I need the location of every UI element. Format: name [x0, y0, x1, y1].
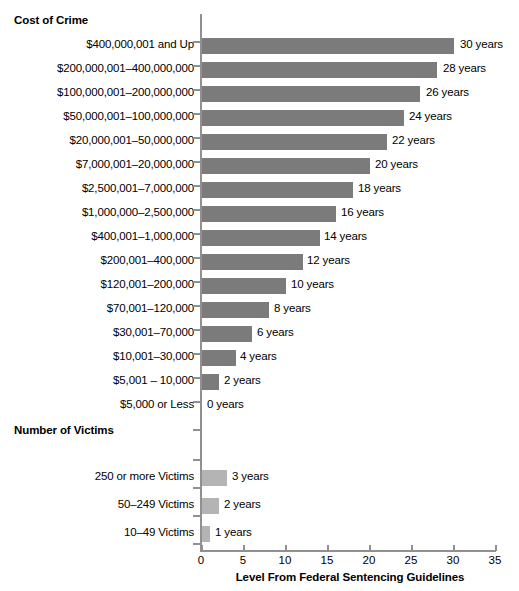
y-axis-tick: [193, 459, 201, 461]
y-axis-tick: [193, 429, 201, 431]
x-axis-tick: [411, 545, 413, 551]
bar-row-label: $1,000,000–2,500,000: [4, 206, 194, 218]
y-axis-tick: [193, 209, 201, 211]
bar-row: $2,500,001–7,000,000 18 years: [0, 178, 519, 202]
bar-row-label: $400,000,001 and Up: [4, 38, 194, 50]
bar-value-label: 2 years: [224, 374, 261, 386]
bar: [202, 62, 437, 78]
bar-value-label: 1 years: [215, 526, 252, 538]
group-heading-number-of-victims: Number of Victims: [14, 424, 114, 436]
x-axis-title: Level From Federal Sentencing Guidelines: [200, 571, 500, 583]
bar-value-label: 16 years: [341, 206, 384, 218]
x-axis-tick: [453, 545, 455, 551]
bar: [202, 326, 252, 342]
bar-row: $5,001 – 10,000 2 years: [0, 370, 519, 394]
bar-row-label: 10–49 Victims: [4, 526, 194, 538]
bar: [202, 158, 370, 174]
x-axis-tick: [243, 545, 245, 551]
bar-row-label: $200,000,001–400,000,000: [4, 62, 194, 74]
bar-row: $100,000,001–200,000,000 26 years: [0, 82, 519, 106]
bar-row-label: $5,001 – 10,000: [4, 374, 194, 386]
bar-value-label: 26 years: [426, 86, 469, 98]
bar-chart: Cost of Crime $400,000,001 and Up 30 yea…: [0, 0, 519, 591]
y-axis-tick: [193, 65, 201, 67]
y-axis-tick: [193, 41, 201, 43]
bar: [202, 110, 404, 126]
bar-row: $5,000 or Less 0 years: [0, 394, 519, 418]
y-axis-tick: [193, 161, 201, 163]
bar: [202, 278, 286, 294]
y-axis-tick: [193, 401, 201, 403]
group-heading-cost-of-crime: Cost of Crime: [14, 14, 88, 26]
bar: [202, 206, 336, 222]
bar-value-label: 30 years: [460, 38, 503, 50]
x-axis-tick-label: 20: [349, 554, 389, 566]
x-axis-tick: [369, 545, 371, 551]
bar-value-label: 12 years: [307, 254, 350, 266]
bar-row: $200,001–400,000 12 years: [0, 250, 519, 274]
x-axis-tick: [327, 545, 329, 551]
bar-row-label: $120,001–200,000: [4, 278, 194, 290]
bar-value-label: 10 years: [291, 278, 334, 290]
bar-row-label: 50–249 Victims: [4, 498, 194, 510]
bar-value-label: 24 years: [409, 110, 452, 122]
bar: [202, 182, 353, 198]
x-axis-tick-label: 35: [475, 554, 515, 566]
bar-row-label: $10,001–30,000: [4, 350, 194, 362]
bar-value-label: 28 years: [443, 62, 486, 74]
bar-value-label: 14 years: [324, 230, 367, 242]
bar-row: $30,001–70,000 6 years: [0, 322, 519, 346]
y-axis-tick: [193, 329, 201, 331]
x-axis-tick-label: 0: [181, 554, 221, 566]
bar-value-label: 4 years: [240, 350, 277, 362]
y-axis-line: [200, 14, 202, 551]
bar-row-label: $5,000 or Less: [4, 398, 194, 410]
x-axis-tick-label: 10: [265, 554, 305, 566]
y-axis-tick: [193, 89, 201, 91]
bar: [202, 230, 320, 246]
y-axis-tick: [193, 543, 201, 545]
bar-row: $10,001–30,000 4 years: [0, 346, 519, 370]
bar: [202, 86, 420, 102]
bar: [202, 470, 227, 486]
bar-value-label: 0 years: [207, 398, 244, 410]
y-axis-tick: [193, 377, 201, 379]
bar-value-label: 6 years: [257, 326, 294, 338]
bar: [202, 498, 219, 514]
bar-row: $1,000,000–2,500,000 16 years: [0, 202, 519, 226]
bar-value-label: 8 years: [274, 302, 311, 314]
bar-row: $50,000,001–100,000,000 24 years: [0, 106, 519, 130]
x-axis-tick-label: 25: [391, 554, 431, 566]
y-axis-tick: [193, 257, 201, 259]
bar-row: $120,001–200,000 10 years: [0, 274, 519, 298]
bar-row: $200,000,001–400,000,000 28 years: [0, 58, 519, 82]
y-axis-tick: [193, 137, 201, 139]
y-axis-tick: [193, 185, 201, 187]
bar-value-label: 20 years: [375, 158, 418, 170]
bar-row-label: $20,000,001–50,000,000: [4, 134, 194, 146]
bar-row: 50–249 Victims 2 years: [0, 494, 519, 518]
bar-value-label: 22 years: [392, 134, 435, 146]
bar: [202, 38, 454, 54]
bar-row-label: $400,001–1,000,000: [4, 230, 194, 242]
x-axis-tick-label: 15: [307, 554, 347, 566]
bar-row: $20,000,001–50,000,000 22 years: [0, 130, 519, 154]
bar-row: $70,001–120,000 8 years: [0, 298, 519, 322]
bar: [202, 374, 219, 390]
x-axis-tick-label: 30: [433, 554, 473, 566]
y-axis-tick: [193, 515, 201, 517]
x-axis-tick: [285, 545, 287, 551]
y-axis-tick: [193, 233, 201, 235]
bar: [202, 254, 303, 270]
y-axis-tick: [193, 113, 201, 115]
bar-row-label: $7,000,001–20,000,000: [4, 158, 194, 170]
bar: [202, 526, 210, 542]
bar-row-label: $50,000,001–100,000,000: [4, 110, 194, 122]
y-axis-tick: [193, 353, 201, 355]
bar: [202, 302, 269, 318]
bar-row-label: $2,500,001–7,000,000: [4, 182, 194, 194]
bar-row: $400,000,001 and Up 30 years: [0, 34, 519, 58]
bar-row-label: $100,000,001–200,000,000: [4, 86, 194, 98]
bar-row: $400,001–1,000,000 14 years: [0, 226, 519, 250]
bar: [202, 134, 387, 150]
